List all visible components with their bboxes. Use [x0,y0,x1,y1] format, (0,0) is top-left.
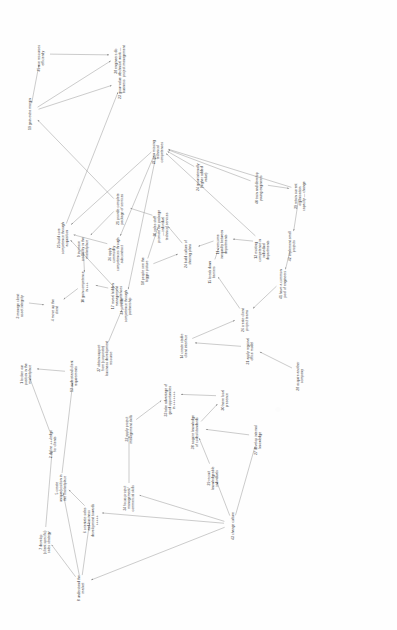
edge-43-to-34 [140,495,225,521]
node-29[interactable]: 29 recruit knowledgeable individuals [207,463,219,493]
edge-43-to-8 [91,527,224,580]
edge-layer [0,0,397,630]
node-18[interactable]: 18 people see the bigger picture [141,256,149,286]
node-41[interactable]: 41 have a common pool of engineers [279,268,287,300]
node-45[interactable]: 45 use resources efficiently [37,43,45,73]
edge-10-to-4 [64,288,78,299]
edge-17-to-10 [96,285,108,288]
edge-12-to-11 [233,239,253,241]
node-1[interactable]: 1 broker our position in the marketplace [20,359,32,389]
node-7[interactable]: 7 develop (client specific) sales strate… [39,526,51,558]
edge-24b-to-20 [168,226,182,243]
edge-45-to-38 [50,54,109,55]
edge-32-to-33 [136,401,161,420]
edge-43-to-27 [235,447,255,516]
edge-3-to-4 [29,303,44,305]
node-15[interactable]: 15 break down barriers [208,258,216,286]
diagram-canvas: 45 use resources efficiently38 engineers… [0,0,397,630]
node-42[interactable]: 42 implement small projects [288,230,296,262]
edge-43-to-6 [102,513,224,523]
edge-18-to-24b [153,254,177,264]
node-27[interactable]: 27 develop internal knowledge [254,424,262,456]
node-2[interactable]: 2 define +++ledge for clients [49,429,57,459]
node-24[interactable]: 24 grow internally (higher added value) [196,161,208,193]
edges [29,54,299,580]
edge-38b-to-30 [201,404,217,421]
node-11[interactable]: 11 overcome inequality between departmen… [216,228,228,260]
edge-21-to-9 [91,211,114,235]
edge-28-to-31 [260,352,292,368]
node-22[interactable]: 22 gain missing technical competences [152,137,164,167]
node-20[interactable]: 20 sales staff promote the package — ind… [153,208,170,244]
node-12[interactable]: 12 existing competence in individual dep… [254,233,271,267]
node-32[interactable]: 32 apply project management skills [125,413,133,445]
edge-8-to-7 [52,545,76,577]
node-24b[interactable]: 24 build culture of sharing plans [184,239,192,269]
node-34[interactable]: 34 focus project management/ commercial … [123,482,135,514]
node-37[interactable]: 37 obtain support from (corporate) busin… [97,339,114,377]
node-14[interactable]: 14 create stable client interface [180,331,188,361]
edge-5-to-13 [62,383,73,473]
node-40[interactable]: 40 train and develop young engineers [255,172,263,204]
node-6[interactable]: 6 orientate sales and business developme… [83,502,100,538]
node-33[interactable]: 33 take advantage of good opportunities … [164,382,176,418]
edge-11-to-24b [198,241,213,246]
node-28[interactable]: 28 acquire another company [296,360,304,392]
edge-40-to-22 [168,150,250,181]
edge-7-to-2 [46,451,52,527]
node-25[interactable]: 25 build core competence through acquisi… [57,220,69,256]
edge-20-to-21 [130,208,152,215]
edge-24-to-22 [168,151,195,166]
edge-19-to-23 [39,85,112,109]
edge-39-to-22 [169,149,292,187]
edge-14-to-26 [192,320,235,338]
node-13[interactable]: 13 understand client requirements [70,360,78,392]
node-39[interactable]: 39 retain current organisation capacity … [294,179,306,213]
edge-8-to-5 [63,493,79,575]
edge-22-to-36 [120,154,154,236]
node-43[interactable]: 43 change culture [231,511,235,541]
node-19[interactable]: 19 gain extra margin [28,98,32,130]
node-36[interactable]: 36 apply commodity competences through s… [108,236,125,272]
edge-29-to-38b [199,438,209,463]
edge-26-to-15 [218,277,240,309]
node-38b[interactable]: 38 acquire knowledge of codes/standards [191,415,199,449]
node-17[interactable]: 17 reveal hidden management competences [111,280,123,312]
node-8[interactable]: 8 understand the market [77,573,85,603]
edge-25-to-23 [66,92,118,223]
edge-30-to-33 [181,394,216,395]
node-4[interactable]: 4 move up the client [51,297,59,323]
edge-19-to-38 [38,61,111,107]
node-26[interactable]: 26 create client project teams [241,306,249,334]
node-9[interactable]: 9 increase credibility in the marketplac… [77,234,89,264]
node-31[interactable]: 31 apply regional office model [246,336,254,366]
node-3[interactable]: 3 manage client asset integrity [16,292,24,320]
edge-31-to-14 [195,343,241,346]
edge-27-to-38b [206,429,249,434]
node-21[interactable]: 21 provide complete package of services [116,192,124,226]
edge-41-to-26 [253,286,276,308]
node-10[interactable]: 10 gain competence in +++ [81,271,89,303]
edge-13-to-1 [37,369,65,371]
node-30[interactable]: 30 have local presence [221,386,229,414]
node-5[interactable]: 5 create unique/position in the marketpl… [55,472,67,504]
edge-2-to-1 [30,378,50,431]
node-23[interactable]: 23 grow value of business [118,72,126,100]
